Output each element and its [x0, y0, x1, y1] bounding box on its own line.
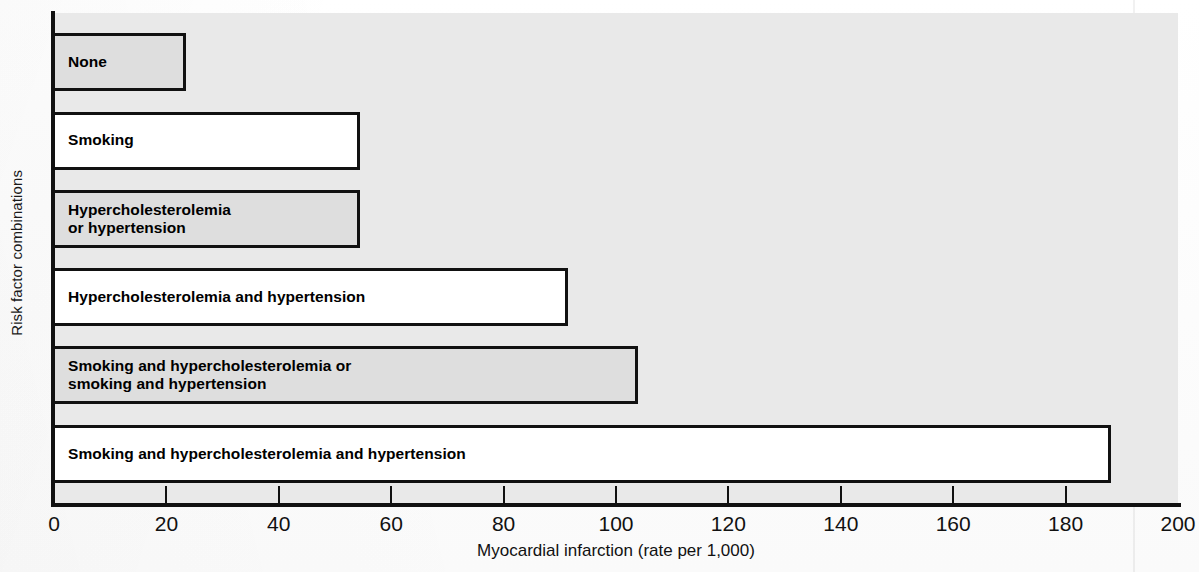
bar: Hypercholesterolemia or hypertension [51, 190, 360, 248]
x-axis-tick [503, 486, 505, 503]
plot-area: NoneSmokingHypercholesterolemia or hyper… [54, 13, 1178, 503]
x-axis-tick-label: 200 [1160, 512, 1195, 536]
x-axis-tick-label: 180 [1048, 512, 1083, 536]
bar-label: Smoking and hypercholesterolemia and hyp… [54, 445, 466, 463]
x-axis-tick-label: 60 [380, 512, 403, 536]
bar-label: Hypercholesterolemia and hypertension [54, 288, 365, 306]
x-axis-tick [390, 486, 392, 503]
bar: Smoking and hypercholesterolemia or smok… [51, 346, 638, 404]
x-axis-tick [165, 486, 167, 503]
x-axis-tick-label: 120 [711, 512, 746, 536]
y-axis-title-text: Risk factor combinations [8, 170, 25, 336]
x-axis-line [51, 503, 1181, 507]
x-axis-tick [952, 486, 954, 503]
bar-label: Smoking [54, 131, 134, 149]
x-axis-tick-label: 100 [598, 512, 633, 536]
bar-label: Smoking and hypercholesterolemia or smok… [54, 357, 351, 394]
y-axis-title: Risk factor combinations [2, 0, 30, 505]
bar-label: None [54, 53, 107, 71]
bar-label: Hypercholesterolemia or hypertension [54, 201, 231, 238]
x-axis-tick [615, 486, 617, 503]
x-axis-tick-label: 0 [48, 512, 60, 536]
x-axis-title: Myocardial infarction (rate per 1,000) [54, 541, 1178, 561]
x-axis-tick-label: 20 [155, 512, 178, 536]
bar: None [51, 33, 186, 91]
x-axis-tick-label: 40 [267, 512, 290, 536]
x-axis-tick [278, 486, 280, 503]
x-axis-tick-label: 160 [936, 512, 971, 536]
x-axis-tick-label: 80 [492, 512, 515, 536]
x-axis-tick-label: 140 [823, 512, 858, 536]
x-axis-tick [840, 486, 842, 503]
bar: Smoking and hypercholesterolemia and hyp… [51, 425, 1111, 483]
y-axis-line [51, 11, 55, 507]
x-axis-tick [1065, 486, 1067, 503]
bar: Smoking [51, 112, 360, 170]
x-axis-tick [727, 486, 729, 503]
myocardial-infarction-bar-chart: Risk factor combinations NoneSmokingHype… [0, 0, 1199, 572]
bar: Hypercholesterolemia and hypertension [51, 268, 568, 326]
